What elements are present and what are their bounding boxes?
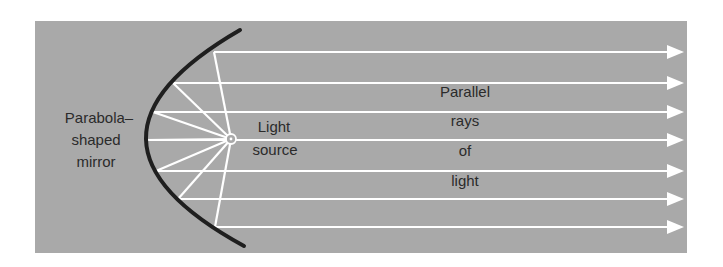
- diagram-panel: [35, 21, 687, 253]
- mirror-label-line-2: shaped: [71, 131, 120, 148]
- source-label-line-1: Light: [258, 118, 291, 135]
- light-source-icon: [226, 134, 236, 144]
- parabolic-mirror-diagram: Parabola– shaped mirror Light source Par…: [0, 0, 723, 267]
- rays-label-line-2: rays: [451, 112, 479, 129]
- source-label-line-2: source: [252, 141, 297, 158]
- rays-label-line-1: Parallel: [440, 83, 490, 100]
- mirror-label-line-3: mirror: [76, 153, 115, 170]
- rays-label-line-4: light: [451, 172, 479, 189]
- rays-label-line-3: of: [459, 142, 472, 159]
- mirror-label-line-1: Parabola–: [65, 109, 134, 126]
